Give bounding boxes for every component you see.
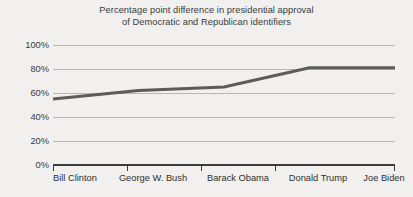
gridline-80 <box>53 69 395 70</box>
y-tick-label-80: 80% <box>3 64 49 74</box>
x-axis-label-joe-biden: Joe Biden <box>363 173 404 183</box>
y-tick-label-60: 60% <box>3 88 49 98</box>
y-tick-label-40: 40% <box>3 112 49 122</box>
x-axis-tick-0 <box>53 165 54 171</box>
x-axis-label-george-w-bush: George W. Bush <box>119 173 187 183</box>
x-axis-tick-2 <box>201 165 202 171</box>
gridline-40 <box>53 117 395 118</box>
gridline-20 <box>53 141 395 142</box>
x-axis-label-donald-trump: Donald Trump <box>289 173 347 183</box>
y-tick-label-20: 20% <box>3 136 49 146</box>
x-axis-tick-1 <box>127 165 128 171</box>
y-axis-labels: 100% 80% 60% 40% 20% 0% <box>0 0 49 197</box>
gridline-100 <box>53 45 395 46</box>
chart-title: Percentage point difference in president… <box>0 5 413 28</box>
y-tick-label-0: 0% <box>3 160 49 170</box>
x-axis-baseline <box>53 164 395 166</box>
plot-area <box>53 45 395 165</box>
y-tick-label-100: 100% <box>3 40 49 50</box>
x-axis-tick-4 <box>394 165 395 171</box>
x-axis-tick-3 <box>275 165 276 171</box>
gridline-60 <box>53 93 395 94</box>
x-axis-label-barack-obama: Barack Obama <box>207 173 269 183</box>
x-axis-label-bill-clinton: Bill Clinton <box>53 173 97 183</box>
chart-container: Percentage point difference in president… <box>0 0 413 197</box>
